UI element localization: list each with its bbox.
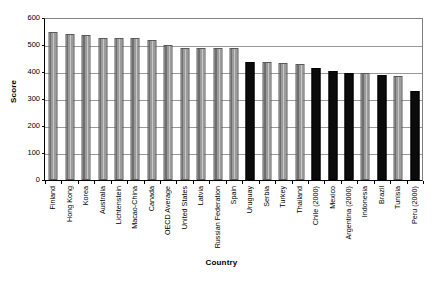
x-tick-label: Korea bbox=[82, 186, 90, 205]
x-tick-label: Serbia bbox=[263, 186, 271, 207]
x-tick-mark bbox=[61, 181, 62, 184]
bar-slot bbox=[61, 18, 77, 180]
bar-slot bbox=[193, 18, 209, 180]
x-tick-mark bbox=[308, 181, 309, 184]
y-axis-tick-marks bbox=[0, 18, 45, 181]
x-tick-mark bbox=[160, 181, 161, 184]
bar-slot bbox=[275, 18, 291, 180]
x-tick-mark bbox=[45, 181, 46, 184]
bar-slot bbox=[94, 18, 110, 180]
x-axis-tick-labels: FinlandHong KongKoreaAustraliaLichtenste… bbox=[45, 186, 423, 248]
x-tick-label: Indonesia bbox=[361, 186, 369, 217]
x-tick-label: Russian Federation bbox=[214, 186, 222, 248]
bar[interactable] bbox=[377, 75, 386, 180]
x-tick-mark bbox=[275, 181, 276, 184]
bars-layer bbox=[45, 18, 423, 180]
bar[interactable] bbox=[49, 32, 58, 180]
x-tick-label: Hong Kong bbox=[66, 186, 74, 222]
x-tick-label: Australia bbox=[99, 186, 107, 214]
bar-slot bbox=[341, 18, 357, 180]
x-tick-label: Peru (2000) bbox=[411, 186, 419, 224]
bar[interactable] bbox=[312, 68, 321, 180]
x-tick-label: Thailand bbox=[296, 186, 304, 214]
x-tick-label: Uruguay bbox=[246, 186, 254, 213]
bar-slot bbox=[292, 18, 308, 180]
bar[interactable] bbox=[279, 63, 288, 180]
x-tick-mark bbox=[423, 181, 424, 184]
bar[interactable] bbox=[147, 40, 156, 180]
bar[interactable] bbox=[82, 35, 91, 180]
bar-slot bbox=[160, 18, 176, 180]
x-tick-label: Turkey bbox=[279, 186, 287, 208]
bar[interactable] bbox=[246, 62, 255, 180]
x-tick-label: Chile (2000) bbox=[312, 186, 320, 225]
x-tick-mark bbox=[127, 181, 128, 184]
bar-slot bbox=[209, 18, 225, 180]
bar[interactable] bbox=[114, 38, 123, 180]
bar-slot bbox=[407, 18, 423, 180]
bar-slot bbox=[127, 18, 143, 180]
x-tick-mark bbox=[341, 181, 342, 184]
x-tick-label: Canada bbox=[148, 186, 156, 211]
x-tick-mark bbox=[374, 181, 375, 184]
x-tick-mark bbox=[144, 181, 145, 184]
x-tick-mark bbox=[226, 181, 227, 184]
bar[interactable] bbox=[361, 73, 370, 180]
x-tick-label: Latvia bbox=[197, 186, 205, 205]
bar[interactable] bbox=[328, 71, 337, 180]
x-tick-mark bbox=[209, 181, 210, 184]
x-tick-mark bbox=[292, 181, 293, 184]
bar[interactable] bbox=[394, 76, 403, 180]
x-tick-label: United States bbox=[181, 186, 189, 229]
bar-slot bbox=[259, 18, 275, 180]
x-tick-mark bbox=[324, 181, 325, 184]
x-tick-label: OECD Average bbox=[164, 186, 172, 235]
bar[interactable] bbox=[213, 48, 222, 180]
bar-slot bbox=[308, 18, 324, 180]
x-tick-mark bbox=[357, 181, 358, 184]
x-axis-tick-marks bbox=[45, 181, 423, 185]
bar[interactable] bbox=[180, 48, 189, 180]
x-tick-label: Argentina (2000) bbox=[345, 186, 353, 240]
bar-slot bbox=[390, 18, 406, 180]
x-tick-mark bbox=[390, 181, 391, 184]
bar[interactable] bbox=[197, 48, 206, 180]
bar[interactable] bbox=[131, 38, 140, 180]
x-tick-mark bbox=[176, 181, 177, 184]
bar-slot bbox=[144, 18, 160, 180]
bar[interactable] bbox=[164, 45, 173, 180]
bar[interactable] bbox=[229, 48, 238, 180]
bar-slot bbox=[226, 18, 242, 180]
x-tick-mark bbox=[242, 181, 243, 184]
bar-slot bbox=[111, 18, 127, 180]
x-tick-mark bbox=[259, 181, 260, 184]
x-tick-mark bbox=[193, 181, 194, 184]
bar-slot bbox=[374, 18, 390, 180]
x-tick-label: Spain bbox=[230, 186, 238, 204]
bar-slot bbox=[357, 18, 373, 180]
x-tick-mark bbox=[94, 181, 95, 184]
bar-slot bbox=[176, 18, 192, 180]
bar-chart: Score 0100200300400500600 FinlandHong Ko… bbox=[0, 0, 443, 282]
bar-slot bbox=[242, 18, 258, 180]
bar[interactable] bbox=[410, 91, 419, 180]
x-tick-label: Tunisia bbox=[394, 186, 402, 209]
bar-slot bbox=[324, 18, 340, 180]
bar[interactable] bbox=[98, 38, 107, 180]
x-tick-mark bbox=[407, 181, 408, 184]
x-tick-label: Finland bbox=[49, 186, 57, 210]
bar[interactable] bbox=[262, 62, 271, 180]
x-axis-title: Country bbox=[0, 258, 443, 267]
x-tick-label: Macao-China bbox=[131, 186, 139, 229]
x-tick-label: Lichtenstein bbox=[115, 186, 123, 224]
bar-slot bbox=[78, 18, 94, 180]
x-tick-mark bbox=[78, 181, 79, 184]
x-tick-label: Brazil bbox=[378, 186, 386, 204]
bar-slot bbox=[45, 18, 61, 180]
bar[interactable] bbox=[295, 64, 304, 180]
bar[interactable] bbox=[65, 34, 74, 180]
x-tick-label: Mexico bbox=[329, 186, 337, 209]
x-tick-mark bbox=[111, 181, 112, 184]
bar[interactable] bbox=[345, 73, 354, 180]
